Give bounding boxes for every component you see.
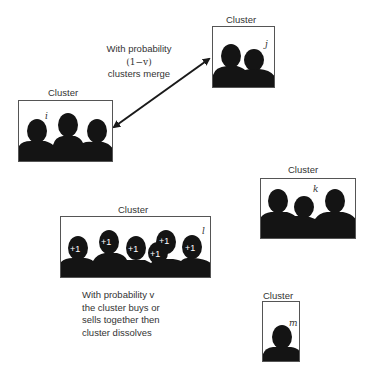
dissolve-note-line3: sells together then — [82, 314, 160, 327]
cluster-m-silhouettes — [263, 302, 300, 362]
cluster-k-silhouettes — [261, 179, 356, 239]
cluster-m: m — [262, 301, 300, 362]
cluster-i-silhouettes — [19, 101, 113, 162]
cluster-j-variable: j — [265, 39, 268, 49]
cluster-l-label: Cluster — [118, 204, 148, 215]
dissolve-note-line4: cluster dissolves — [82, 327, 160, 340]
token-plus-one: +1 — [101, 237, 111, 247]
cluster-m-variable: m — [289, 318, 298, 328]
cluster-i: i — [18, 100, 113, 162]
token-plus-one: +1 — [150, 249, 160, 259]
cluster-j: j — [212, 26, 275, 88]
dissolve-note-line2: the cluster buys or — [82, 302, 160, 315]
merge-note-line2: (1−v) — [92, 56, 186, 69]
dissolve-note-line1: With probability v — [82, 289, 160, 302]
cluster-j-label: Cluster — [226, 14, 256, 25]
dissolve-note: With probability v the cluster buys or s… — [82, 289, 160, 339]
merge-note-line3: clusters merge — [92, 68, 186, 81]
cluster-l: l +1 +1 +1 +1 +1 +1 — [60, 216, 211, 278]
merge-note-line1: With probability — [92, 43, 186, 56]
merge-note: With probability (1−v) clusters merge — [92, 43, 186, 81]
token-plus-one: +1 — [128, 244, 138, 254]
cluster-l-variable: l — [202, 226, 205, 236]
cluster-j-silhouettes — [213, 27, 275, 88]
cluster-m-label: Cluster — [263, 290, 293, 301]
token-plus-one: +1 — [185, 243, 195, 253]
token-plus-one: +1 — [70, 244, 80, 254]
cluster-k: k — [260, 178, 356, 239]
token-plus-one: +1 — [159, 236, 169, 246]
cluster-k-label: Cluster — [288, 164, 318, 175]
cluster-k-variable: k — [313, 184, 318, 194]
cluster-i-variable: i — [45, 111, 48, 121]
cluster-i-label: Cluster — [48, 87, 78, 98]
